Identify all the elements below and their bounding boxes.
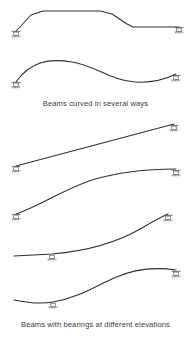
beam-bearing-diagram-figure: Beams curved in several ways Beams with … [0,0,191,337]
bearing-interior-cantilever-s-curve [48,303,57,308]
beam-path-straight-incline [16,124,174,166]
bearing-right-arched-incline [171,170,180,176]
caption-beams-bearings-elevations: Beams with bearings at different elevati… [0,320,191,329]
beam-path-cantilever-s-curve [14,269,176,303]
beam-path-trapezoidal-polyline [16,11,179,31]
beam-path-cantilever-rising [14,214,168,256]
beam-path-arched-incline [16,169,176,214]
bearing-interior-cantilever-rising [47,255,56,260]
bearing-left-straight-incline [11,166,20,172]
beam-path-s-curve [16,61,176,83]
bearing-left-s-curve [11,82,20,88]
beam-group-arched-incline [11,169,180,220]
bearing-left-arched-incline [11,214,20,220]
bearing-right-s-curve [171,75,180,81]
beam-diagrams-canvas [0,0,191,337]
beam-group-trapezoidal-polyline [11,11,183,37]
bearing-right-straight-incline [169,125,178,131]
beam-group-cantilever-rising [14,214,173,261]
beam-group-cantilever-s-curve [14,269,181,309]
caption-beams-curved: Beams curved in several ways [0,99,191,108]
beam-group-s-curve [11,61,180,89]
bearing-right-trapezoidal [174,27,183,33]
bearing-left-trapezoidal [11,31,20,37]
bearing-right-cantilever-rising [163,215,172,221]
beam-group-straight-incline [11,124,178,172]
bearing-right-cantilever-s-curve [171,271,180,277]
